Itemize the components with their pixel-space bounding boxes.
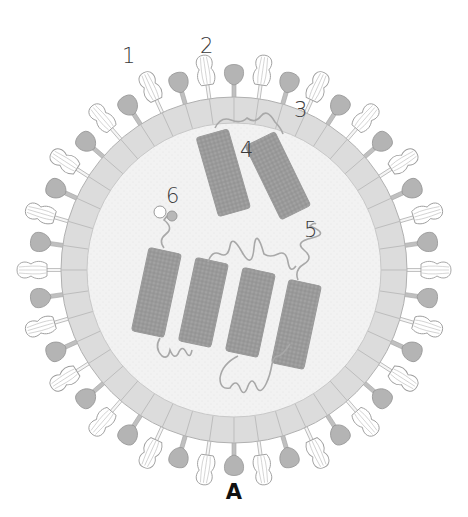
panel-label: A <box>0 480 468 504</box>
label-1: 1 <box>122 46 135 67</box>
virion-diagram: 1 2 3 4 5 6 A <box>0 0 468 517</box>
label-6: 6 <box>166 186 179 207</box>
label-5: 5 <box>304 220 317 241</box>
label-3: 3 <box>294 100 307 121</box>
label-2: 2 <box>200 36 213 57</box>
label-4: 4 <box>240 140 253 161</box>
virion-illustration <box>0 0 468 517</box>
